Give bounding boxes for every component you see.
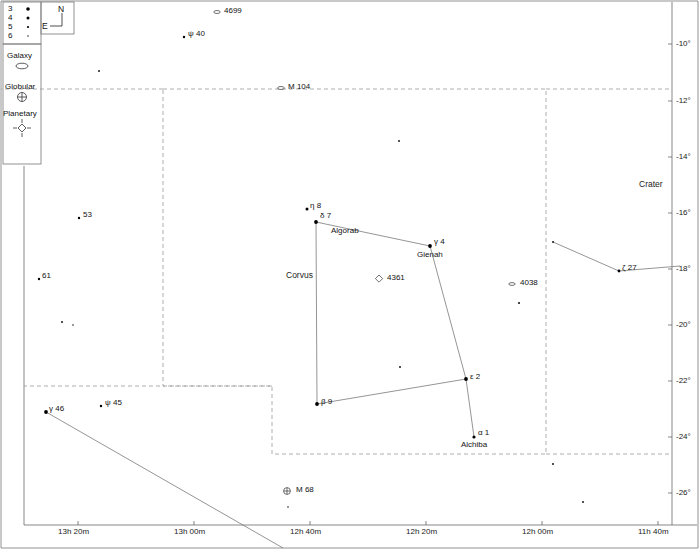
star-name-alchiba: Alchiba	[461, 441, 487, 449]
dec-tick-label-6: -20°	[676, 321, 691, 329]
star-epsilon2	[464, 377, 468, 381]
star-label-gamma46: γ 46	[49, 405, 64, 413]
ra-tick-label-1: 13h 20m	[58, 528, 89, 536]
compass-marker	[50, 13, 62, 26]
star-beta9	[315, 402, 319, 406]
legend-mag-5: 5	[8, 23, 12, 31]
asterism-crater	[553, 242, 680, 271]
constellation-boundary-corvus	[163, 89, 546, 454]
legend-mag-3: 3	[8, 5, 12, 13]
dso-label-m68: M 68	[296, 486, 314, 494]
star-61	[38, 278, 40, 280]
star-alpha1	[472, 435, 475, 438]
dec-tick-label-7: -22°	[676, 377, 691, 385]
constellation-label-crater: Crater	[639, 180, 663, 189]
constellation-boundary-north	[1, 89, 672, 454]
star-psi45	[100, 405, 102, 407]
dso-4038	[509, 283, 515, 286]
dso-label-4038: 4038	[520, 279, 538, 287]
legend-label-planetary: Planetary	[3, 110, 37, 118]
star-label-alpha1: α 1	[478, 429, 489, 437]
dso-4699	[214, 11, 220, 14]
compass-north-label: N	[58, 5, 64, 14]
dec-tick-label-9: -26°	[676, 489, 691, 497]
star-label-delta7: δ 7	[320, 212, 331, 220]
star-delta7	[314, 220, 318, 224]
dso-m68	[284, 488, 291, 495]
star-psi40	[183, 36, 185, 38]
star-label-psi45: ψ 45	[105, 399, 122, 407]
legend-label-galaxy: Galaxy	[7, 52, 32, 60]
dso-4361	[375, 275, 382, 282]
asterism-corvus	[316, 222, 474, 437]
field-stars	[61, 70, 584, 508]
star-label-psi40: ψ 40	[188, 30, 205, 38]
compass-east-label: E	[42, 22, 48, 31]
constellation-label-corvus: Corvus	[286, 271, 313, 280]
dec-tick-label-4: -16°	[676, 209, 691, 217]
star-label-zeta27: ζ 27	[622, 264, 637, 272]
dec-tick-label-2: -12°	[676, 97, 691, 105]
dec-tick-label-5: -18°	[676, 265, 691, 273]
star-gamma4	[428, 244, 432, 248]
star-gamma46	[44, 410, 48, 414]
star-label-eta8: η 8	[310, 202, 321, 210]
ra-tick-label-2: 13h 00m	[174, 528, 205, 536]
star-name-gienah: Gienah	[417, 251, 443, 259]
legend-label-globular: Globular	[5, 83, 35, 91]
dec-tick-label-3: -14°	[676, 153, 691, 161]
star-name-algorab: Algorab	[331, 227, 359, 235]
legend-mag-6: 6	[8, 32, 12, 40]
galaxy-icon	[16, 63, 28, 69]
ra-tick-label-5: 12h 00m	[522, 528, 553, 536]
legend-magnitude-dots	[26, 7, 30, 37]
dso-label-m104: M 104	[288, 83, 310, 91]
star-label-beta9: β 9	[321, 398, 332, 406]
ra-tick-label-3: 12h 40m	[290, 528, 321, 536]
dso-label-4699: 4699	[224, 7, 242, 15]
dec-tick-label-1: -10°	[676, 40, 691, 48]
globular-icon	[18, 93, 27, 102]
ra-tick-label-4: 12h 20m	[406, 528, 437, 536]
dso-m104	[278, 87, 285, 90]
star-label-gamma4: γ 4	[434, 238, 445, 246]
star-markers	[38, 36, 621, 439]
star-chart: 3 4 5 6 Galaxy Globular Planetary N E 46…	[0, 0, 699, 549]
star-53	[78, 217, 80, 219]
star-label-61: 61	[42, 272, 51, 280]
dso-label-4361: 4361	[387, 274, 405, 282]
legend-mag-4: 4	[8, 14, 12, 22]
chart-frame	[1, 1, 698, 548]
ra-tick-label-6: 11h 40m	[638, 528, 669, 536]
ra-ticks	[78, 521, 658, 525]
star-eta8	[306, 208, 309, 211]
dec-tick-label-8: -24°	[676, 433, 691, 441]
dec-ticks	[668, 44, 672, 493]
star-zeta27	[618, 270, 621, 273]
sky-canvas	[0, 0, 699, 549]
star-label-53: 53	[83, 211, 92, 219]
star-label-epsilon2: ε 2	[470, 373, 480, 381]
planetary-icon	[13, 119, 31, 137]
plot-axes	[24, 2, 697, 525]
